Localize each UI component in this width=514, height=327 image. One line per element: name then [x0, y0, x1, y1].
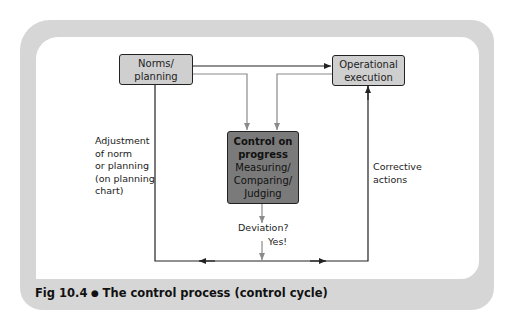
operational-execution-node: Operational execution: [332, 55, 405, 86]
label-line: Adjustment: [95, 135, 155, 148]
label-line: of norm: [95, 148, 155, 161]
node-label: progress: [228, 148, 298, 161]
label-line: chart): [95, 185, 155, 198]
label-line: (on planning: [95, 173, 155, 186]
figure-number: Fig 10.4: [35, 286, 87, 300]
arrow-norms-to-control: [192, 74, 247, 130]
control-on-progress-node: Control on progress Measuring/ Comparing…: [227, 131, 299, 204]
node-label: Measuring/: [228, 161, 298, 174]
deviation-label: Deviation?: [238, 222, 288, 235]
node-label: Operational: [333, 58, 404, 71]
figure-caption: Fig 10.4 ● The control process (control …: [35, 286, 328, 300]
figure-title: The control process (control cycle): [103, 286, 328, 300]
yes-label: Yes!: [268, 236, 287, 249]
corrective-actions-label: Corrective actions: [373, 161, 422, 186]
node-label: Judging: [228, 187, 298, 200]
node-label: Control on: [228, 135, 298, 148]
label-line: Corrective: [373, 161, 422, 174]
label-line: or planning: [95, 160, 155, 173]
adjustment-label: Adjustment of norm or planning (on plann…: [95, 135, 155, 198]
node-label: planning: [120, 70, 192, 83]
arrow-operational-to-control: [277, 74, 332, 130]
node-label: execution: [333, 71, 404, 84]
bullet-icon: ●: [91, 288, 99, 298]
norms-planning-node: Norms/ planning: [119, 54, 193, 85]
node-label: Norms/: [120, 57, 192, 70]
node-label: Comparing/: [228, 174, 298, 187]
label-line: actions: [373, 174, 422, 187]
